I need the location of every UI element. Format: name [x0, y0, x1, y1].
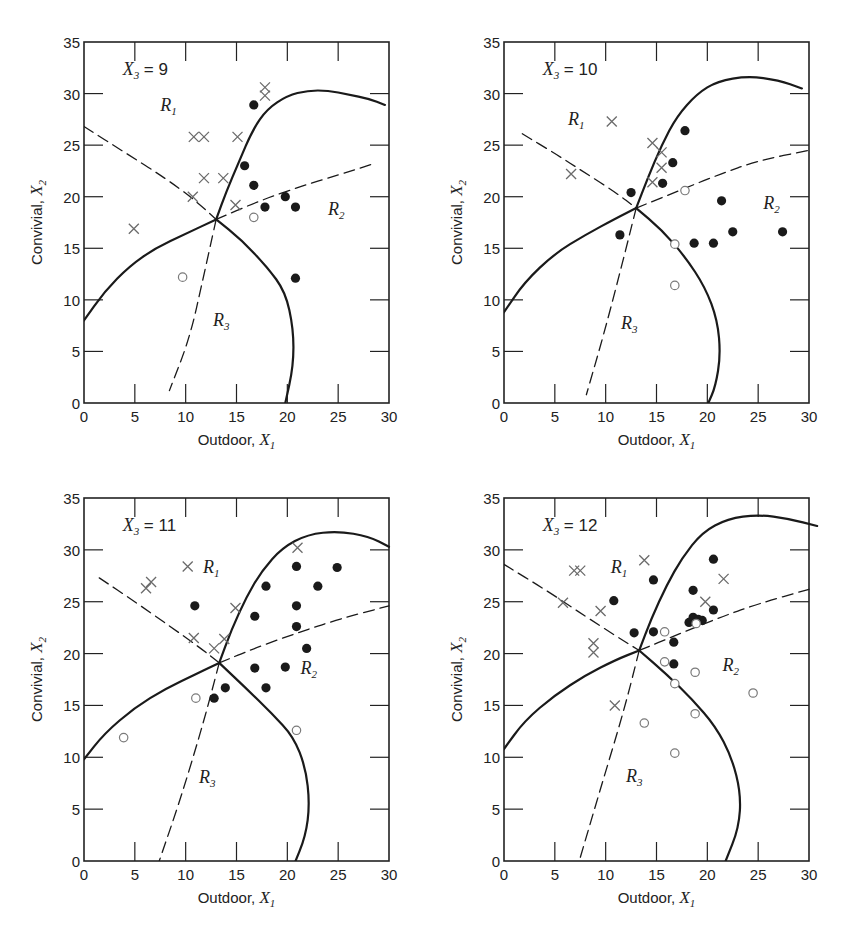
chart-panel-x3-11: 05101520253005101520253035Outdoor, X1Con… — [0, 470, 420, 936]
y-tick-label: 30 — [483, 86, 500, 103]
filled-circle-marker — [630, 628, 639, 637]
cross-marker — [596, 606, 606, 616]
filled-circle-marker — [250, 663, 259, 672]
y-tick-label: 15 — [63, 240, 80, 257]
cross-marker — [129, 224, 139, 234]
series-x — [558, 555, 729, 710]
plot-frame — [504, 498, 809, 861]
cross-marker — [647, 177, 657, 187]
region-label: R3 — [620, 313, 638, 335]
region-label: R2 — [327, 199, 345, 221]
x-tick-label: 5 — [551, 408, 559, 425]
x-axis-title: Outdoor, X1 — [198, 430, 276, 451]
x-tick-label: 15 — [228, 866, 245, 883]
solid-boundary-line — [84, 663, 219, 759]
x-tick-label: 5 — [131, 866, 139, 883]
x-tick-label: 0 — [500, 866, 508, 883]
solid-boundary-line — [216, 219, 293, 403]
y-tick-label: 30 — [483, 542, 500, 559]
filled-circle-marker — [292, 622, 301, 631]
x-tick-label: 0 — [80, 866, 88, 883]
open-circle-marker — [119, 733, 127, 741]
region-label: R1 — [567, 109, 585, 131]
series-filled-circle — [240, 100, 300, 282]
open-circle-marker — [671, 240, 679, 248]
region-label: R3 — [198, 767, 216, 789]
y-tick-label: 15 — [483, 697, 500, 714]
region-label: R2 — [762, 193, 780, 215]
panel-label: X3 = 11 — [122, 515, 177, 537]
dashed-boundary-line — [586, 208, 636, 395]
y-tick-label: 35 — [483, 490, 500, 507]
series-filled-circle — [615, 126, 787, 248]
cross-marker — [700, 597, 710, 607]
x-tick-label: 15 — [648, 866, 665, 883]
y-tick-label: 0 — [72, 853, 80, 870]
series-open-circle — [640, 619, 757, 757]
region-label: R1 — [159, 95, 177, 117]
open-circle-marker — [692, 619, 700, 627]
plot-frame — [84, 42, 389, 403]
y-tick-label: 20 — [483, 646, 500, 663]
filled-circle-marker — [649, 575, 658, 584]
solid-boundary-line — [636, 208, 719, 403]
series-x — [141, 543, 302, 654]
solid-boundary-line — [84, 219, 216, 320]
dashed-boundary-line — [159, 663, 219, 861]
open-circle-marker — [671, 749, 679, 757]
open-circle-marker — [178, 273, 186, 281]
x-tick-label: 30 — [801, 866, 818, 883]
filled-circle-marker — [649, 627, 658, 636]
decision-boundaries — [84, 90, 385, 403]
cross-marker — [293, 543, 303, 553]
dashed-boundary-line — [579, 650, 639, 861]
x-tick-label: 15 — [648, 408, 665, 425]
panel-label: X3 = 9 — [122, 59, 168, 81]
y-tick-label: 5 — [72, 801, 80, 818]
y-tick-label: 10 — [483, 292, 500, 309]
filled-circle-marker — [261, 683, 270, 692]
x-tick-label: 25 — [330, 408, 347, 425]
chart-panel-x3-9: 05101520253005101520253035Outdoor, X1Con… — [0, 0, 420, 466]
y-tick-label: 15 — [63, 697, 80, 714]
y-tick-label: 20 — [63, 646, 80, 663]
solid-boundary-line — [504, 208, 636, 312]
cross-marker — [575, 566, 585, 576]
y-tick-label: 25 — [483, 137, 500, 154]
cross-marker — [230, 200, 240, 210]
cross-marker — [588, 648, 598, 658]
decision-boundaries — [84, 532, 389, 866]
filled-circle-marker — [281, 662, 290, 671]
filled-circle-marker — [626, 188, 635, 197]
x-tick-label: 30 — [381, 408, 398, 425]
cross-marker — [189, 633, 199, 643]
x-tick-label: 10 — [177, 866, 194, 883]
x-tick-label: 0 — [80, 408, 88, 425]
x-tick-label: 30 — [381, 866, 398, 883]
filled-circle-marker — [669, 659, 678, 668]
filled-circle-marker — [658, 179, 667, 188]
y-axis-title: Convivial, X2 — [447, 179, 468, 265]
open-circle-marker — [749, 689, 757, 697]
filled-circle-marker — [249, 100, 258, 109]
y-tick-label: 30 — [63, 542, 80, 559]
chart-panel-x3-12: 05101520253005101520253035Outdoor, X1Con… — [420, 470, 840, 936]
cross-marker — [141, 583, 151, 593]
open-circle-marker — [671, 281, 679, 289]
filled-circle-marker — [292, 562, 301, 571]
filled-circle-marker — [709, 239, 718, 248]
filled-circle-marker — [250, 612, 259, 621]
decision-boundaries — [504, 77, 809, 403]
filled-circle-marker — [690, 239, 699, 248]
open-circle-marker — [671, 679, 679, 687]
y-tick-label: 35 — [63, 490, 80, 507]
x-tick-label: 20 — [699, 866, 716, 883]
cross-marker — [588, 638, 598, 648]
panel-label: X3 = 10 — [542, 59, 598, 81]
dashed-boundary-line — [522, 134, 636, 208]
cross-marker — [260, 91, 270, 101]
cross-marker — [199, 173, 209, 183]
y-tick-label: 20 — [483, 189, 500, 206]
filled-circle-marker — [292, 601, 301, 610]
cross-marker — [209, 643, 219, 653]
